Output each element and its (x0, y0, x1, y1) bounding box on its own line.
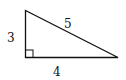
triangle-diagram: 3 5 4 (0, 0, 126, 80)
right-angle-marker (26, 50, 34, 58)
right-triangle (26, 11, 119, 58)
horizontal-leg-label: 4 (53, 65, 61, 79)
vertical-leg-label: 3 (7, 31, 15, 45)
hypotenuse-label: 5 (64, 17, 72, 31)
